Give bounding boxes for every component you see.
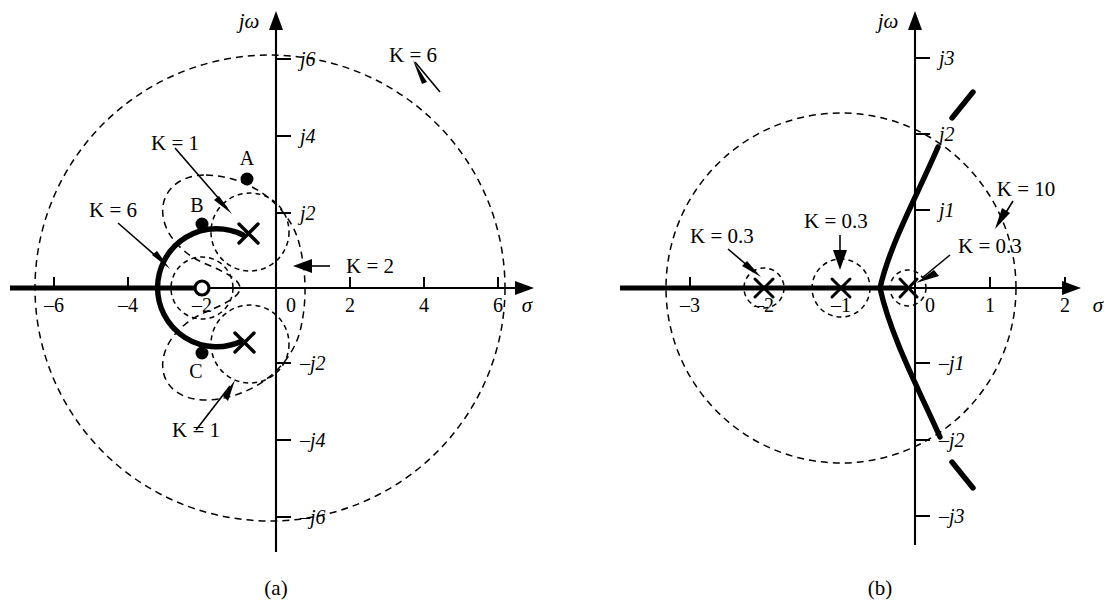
tick-label-b-imag--j3: –j3 [938, 505, 965, 528]
root-locus-branch-b [880, 147, 940, 437]
tick-label-b-imag-j3: j3 [936, 47, 955, 70]
label-k1-lower-a: K = 1 [172, 418, 220, 442]
tick-label-a-imag-j6: j6 [297, 48, 316, 71]
point-a-dot [241, 173, 254, 186]
tick-label-b-real-2: 2 [1060, 294, 1070, 316]
axis-label-a-sigma: σ [522, 293, 534, 317]
tick-label-a-real-6: 6 [493, 294, 503, 316]
point-label-b: B [190, 194, 203, 216]
leader-k2-a [293, 259, 330, 273]
tick-label-a-real-4: 4 [419, 294, 429, 316]
tick-label-a-imag--j2: –j2 [299, 352, 326, 375]
root-locus-asymptote-lower-b [952, 462, 973, 488]
label-k2-a: K = 2 [346, 254, 394, 278]
label-k03-left-b: K = 0.3 [690, 224, 754, 248]
leader-k03-middle-b [833, 235, 847, 270]
leader-k03-left-b [728, 249, 761, 277]
label-k6-locus-a: K = 6 [89, 198, 137, 222]
label-k1-upper-a: K = 1 [151, 131, 199, 155]
axis-label-b-jomega: jω [875, 9, 899, 33]
tick-label-b-real-0: 0 [925, 294, 935, 316]
point-label-a: A [240, 147, 255, 169]
tick-label-a-imag--j6: –j6 [299, 506, 326, 529]
tick-label-b-real-1: 1 [985, 294, 995, 316]
leader-k03-right-b [916, 255, 950, 283]
tick-label-b-imag-j1: j1 [936, 199, 955, 222]
tick-label-b-imag-j2: j2 [936, 123, 955, 146]
axis-label-a-jomega: jω [236, 9, 260, 33]
panel-a: –6 –4 –2 0 2 4 6 σ jω j6 j4 j2 –j2 –j4 –… [10, 9, 534, 600]
tick-label-b-real--3: –3 [679, 294, 700, 316]
tick-label-a-real-0: 0 [286, 294, 296, 316]
tick-label-a-real--2: –2 [191, 294, 212, 316]
panel-b: –3 –2 –1 0 1 2 σ jω j3 j2 j1 –j1 –j2 –j3… [620, 9, 1105, 600]
label-k03-middle-b: K = 0.3 [804, 209, 868, 233]
point-c-dot [196, 347, 209, 360]
label-k10-b: K = 10 [997, 177, 1056, 201]
imag-axis-arrow-a [269, 11, 283, 30]
tick-label-b-real--2: –2 [753, 294, 774, 316]
caption-panel-b: (b) [868, 576, 893, 600]
root-locus-asymptote-upper-b [952, 92, 973, 118]
figure-svg: –6 –4 –2 0 2 4 6 σ jω j6 j4 j2 –j2 –j4 –… [0, 0, 1117, 612]
tick-label-a-real-2: 2 [345, 294, 355, 316]
tick-label-a-real--6: –6 [43, 294, 64, 316]
point-label-c: C [189, 360, 202, 382]
tick-label-b-imag--j2: –j2 [938, 429, 965, 452]
root-locus-figure: –6 –4 –2 0 2 4 6 σ jω j6 j4 j2 –j2 –j4 –… [0, 0, 1117, 612]
imag-axis-arrow-b [908, 11, 922, 30]
tick-label-a-real--4: –4 [117, 294, 138, 316]
tick-label-b-real--1: –1 [830, 294, 851, 316]
tick-label-a-imag-j4: j4 [297, 125, 316, 148]
label-k03-right-b: K = 0.3 [958, 234, 1022, 258]
tick-label-a-imag-j2: j2 [297, 202, 316, 225]
leader-k6-locus-a [118, 223, 170, 269]
point-b-dot [196, 218, 209, 231]
caption-panel-a: (a) [264, 576, 287, 600]
zero-marker-a [195, 281, 209, 295]
axis-label-b-sigma: σ [1093, 293, 1105, 317]
tick-label-b-imag--j1: –j1 [938, 352, 965, 375]
label-k6-outer-a: K = 6 [389, 43, 437, 67]
tick-label-a-imag--j4: –j4 [299, 429, 326, 452]
